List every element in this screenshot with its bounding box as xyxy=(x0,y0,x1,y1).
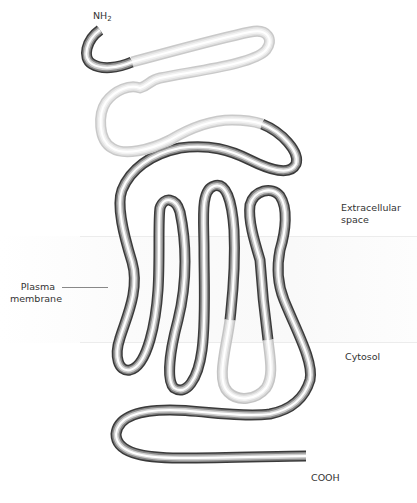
plasma-membrane-label: Plasma membrane xyxy=(10,281,55,305)
plasma-membrane-label-line1: Plasma xyxy=(10,281,55,293)
n-terminus-label: NH2 xyxy=(93,10,112,25)
c-terminus-label: COOH xyxy=(311,472,340,484)
plasma-membrane-leader-line xyxy=(62,287,108,288)
extracellular-label-line2: space xyxy=(341,214,401,226)
extracellular-space-label: Extracellular space xyxy=(341,202,401,226)
protein-tube xyxy=(86,30,310,458)
plasma-membrane-label-line2: membrane xyxy=(10,293,55,305)
cytosol-label: Cytosol xyxy=(345,351,380,363)
extracellular-label-line1: Extracellular xyxy=(341,202,401,214)
protein-chain-diagram xyxy=(0,0,417,503)
